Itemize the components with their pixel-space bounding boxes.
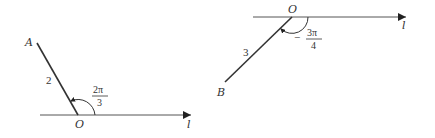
angle-arc xyxy=(71,99,95,115)
angle-numerator: 2π xyxy=(93,84,103,95)
origin-label: O xyxy=(288,3,297,16)
axis-label: l xyxy=(402,19,406,32)
point-label-b: B xyxy=(216,86,225,99)
origin-label: O xyxy=(75,118,84,131)
angle-denominator: 3 xyxy=(97,97,102,108)
point-label-a: A xyxy=(24,36,33,49)
diagram-left: A 2 2π 3 O l xyxy=(24,36,191,131)
length-label: 2 xyxy=(46,74,52,86)
segment-ob xyxy=(225,17,292,82)
length-label: 3 xyxy=(243,46,249,58)
axis-label: l xyxy=(187,118,191,131)
diagram-right: O − 3π 4 3 B l xyxy=(216,3,406,99)
angle-numerator: 3π xyxy=(307,27,317,38)
segment-oa xyxy=(37,43,78,115)
angle-denominator: 4 xyxy=(311,40,316,51)
polar-coordinates-figure: A 2 2π 3 O l O − 3π 4 3 B l xyxy=(0,0,435,138)
angle-sign: − xyxy=(294,31,300,43)
